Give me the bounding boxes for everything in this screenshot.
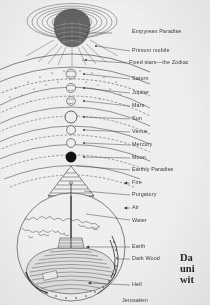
label-sun: Sun (132, 116, 142, 121)
label-hell: Hell (132, 282, 142, 287)
mercury-orb (67, 139, 76, 148)
leader-sun (84, 117, 130, 119)
sun-orb (65, 111, 77, 123)
zodiac-stars (10, 70, 121, 101)
label-mercury: Mercury (132, 142, 152, 147)
label-water: Water (132, 218, 147, 223)
jupiter-orb (66, 83, 75, 92)
venus-orb (67, 126, 76, 135)
moon-orb (66, 152, 76, 162)
mars-orb (67, 97, 76, 106)
label-mars: Mars (132, 103, 144, 108)
label-earth: Earth (132, 244, 145, 249)
label-fire: Fire (132, 180, 142, 185)
caption-line-3: wit (180, 274, 194, 285)
empyrean-dome (54, 9, 90, 47)
label-saturn: Saturn (132, 76, 149, 81)
leader-mercury (84, 143, 130, 145)
caption-line-1: Da (180, 252, 193, 263)
label-moon: Moon (132, 155, 146, 160)
leader-saturn (84, 74, 130, 79)
leader-moon (84, 157, 130, 158)
caption-line-2: uni (180, 263, 195, 274)
diagram-canvas: Empyrean ParadisePrimum mobileFixed star… (0, 0, 210, 305)
leader-primum-mobile (96, 46, 130, 51)
label-venus: Venus (132, 129, 148, 134)
label-purgatory: Purgatory (132, 192, 156, 197)
label-empyrean-paradise: Empyrean Paradise (132, 29, 181, 34)
label-air: Air (132, 205, 139, 210)
label-earthly-paradise: Earthly Paradise (132, 167, 173, 172)
leader-mars (84, 101, 130, 106)
label-fixed-stars-zodiac: Fixed stars—the Zodiac (129, 60, 189, 65)
label-dark-wood: Dark Wood (132, 256, 160, 261)
earth-globe (17, 183, 125, 301)
label-primum-mobile: Primum mobile (132, 48, 170, 53)
label-jerusalem: Jerusalem (122, 298, 148, 303)
planet-orbs (65, 69, 77, 162)
saturn-orb (66, 69, 76, 79)
label-jupiter: Jupiter (132, 90, 149, 95)
leader-venus (84, 130, 130, 132)
leader-earthly-paradise (76, 166, 130, 170)
leader-jupiter (84, 88, 130, 93)
cosmos-diagram (0, 0, 210, 305)
primum-mobile-arc (0, 54, 150, 72)
